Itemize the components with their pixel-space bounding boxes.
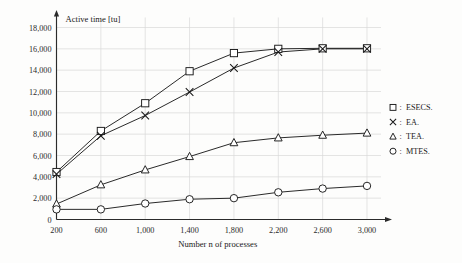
y-axis-tick-label: 12,000 [29, 88, 52, 97]
legend-separator: : [400, 132, 402, 141]
x-axis-tick-label: 2,600 [313, 226, 331, 235]
y-axis-tick-label: 2,000 [33, 194, 51, 203]
series-markers-tea [53, 129, 371, 207]
chart-figure: 02,0004,0006,0008,00010,00012,00014,0001… [0, 0, 462, 263]
x-axis-title: Number n of processes [178, 239, 258, 249]
legend-separator: : [400, 118, 402, 127]
series-tea [57, 133, 368, 204]
x-axis-tick-label: 1,800 [225, 226, 243, 235]
legend-item-ea: :EA. [390, 118, 419, 127]
data-point-marker-circle [275, 189, 282, 196]
data-point-marker-square [230, 50, 237, 57]
y-axis-tick-label: 16,000 [29, 45, 52, 54]
x-axis-tick-label: 2,200 [269, 226, 287, 235]
series-line [57, 48, 368, 172]
gridlines-layer [57, 18, 382, 220]
y-axis-tick-label: 4,000 [33, 173, 51, 182]
data-point-marker-square [186, 68, 193, 75]
line-chart: 02,0004,0006,0008,00010,00012,00014,0001… [0, 0, 462, 263]
data-point-marker-circle [363, 182, 370, 189]
y-axis-tick-label: 10,000 [29, 109, 52, 118]
y-axis-tick-label: 6,000 [33, 152, 51, 161]
data-point-marker-circle [230, 194, 237, 201]
data-point-marker-circle [97, 206, 104, 213]
data-point-marker-circle [186, 196, 193, 203]
series-line [57, 133, 368, 204]
data-point-marker-circle [390, 148, 396, 154]
data-point-marker-x [390, 119, 396, 125]
axes-layer [54, 10, 392, 222]
x-axis-tick-label: 1,000 [136, 226, 154, 235]
data-point-marker-square [142, 100, 149, 107]
series-esecs [57, 48, 368, 172]
legend-label: EA. [406, 118, 419, 127]
legend-item-esecs: :ESECS. [390, 103, 433, 112]
x-axis-tick-label: 600 [95, 226, 107, 235]
legend-label: ESECS. [406, 103, 433, 112]
y-axis-title: Active time [tu] [66, 14, 121, 24]
data-point-marker-square [390, 104, 396, 110]
y-axis-tick-label: 18,000 [29, 24, 52, 33]
x-axis-tick-label: 1,400 [180, 226, 198, 235]
legend-item-mtes: :MTES. [390, 147, 430, 156]
data-point-marker-circle [142, 200, 149, 207]
y-axis-tick-label: 8,000 [33, 130, 51, 139]
y-axis-arrowhead [54, 10, 59, 17]
data-point-marker-triangle [363, 129, 371, 136]
tick-labels-layer: 02,0004,0006,0008,00010,00012,00014,0001… [29, 24, 376, 235]
legend-item-tea: :TEA. [390, 132, 424, 141]
y-axis-tick-label: 0 [47, 216, 51, 225]
legend-label: TEA. [406, 132, 424, 141]
data-point-marker-triangle [390, 133, 396, 139]
x-axis-tick-label: 200 [50, 226, 62, 235]
y-axis-tick-label: 14,000 [29, 66, 52, 75]
legend-separator: : [400, 103, 402, 112]
x-axis-arrowhead [385, 217, 392, 222]
x-axis-tick-label: 3,000 [358, 226, 376, 235]
legend-separator: : [400, 147, 402, 156]
legend: :ESECS.:EA.:TEA.:MTES. [390, 103, 433, 156]
legend-label: MTES. [406, 147, 430, 156]
series-markers-ea [53, 45, 371, 178]
data-point-marker-circle [53, 206, 60, 213]
data-point-marker-circle [319, 185, 326, 192]
